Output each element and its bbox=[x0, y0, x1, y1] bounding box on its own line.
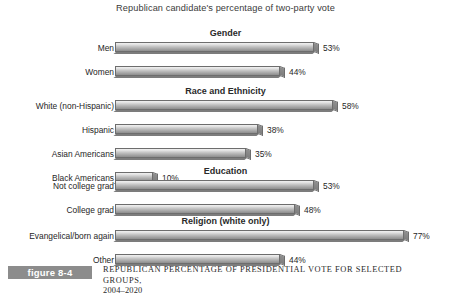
chart-bar-shadow bbox=[113, 52, 315, 54]
chart-bar-shadow bbox=[113, 158, 247, 160]
chart-bar-end-cap bbox=[258, 124, 263, 136]
chart-bar bbox=[115, 66, 280, 78]
figure-caption: figure 8-4 REPUBLICAN PERCENTAGE OF PRES… bbox=[0, 263, 451, 303]
chart-bar-end-cap bbox=[333, 100, 338, 112]
chart-group-title: Education bbox=[0, 166, 451, 176]
chart-group-bars: White (non-Hispanic)58%Hispanic38%Asian … bbox=[0, 100, 451, 148]
chart-bar-value: 53% bbox=[323, 181, 340, 192]
chart-bar-row: Evangelical/born again77% bbox=[0, 230, 451, 242]
chart-title: Republican candidate's percentage of two… bbox=[0, 3, 451, 13]
chart-bar-value: 48% bbox=[304, 205, 321, 216]
chart-bar-shadow bbox=[113, 76, 281, 78]
chart-bar-label: College grad bbox=[67, 204, 115, 216]
figure-caption-line-2: 2004–2020 bbox=[103, 286, 443, 297]
chart-bar-label: Women bbox=[85, 66, 114, 78]
chart-bar-label: White (non-Hispanic) bbox=[36, 100, 114, 112]
chart-bar-end-cap bbox=[280, 66, 285, 78]
chart-group-title: Race and Ethnicity bbox=[0, 86, 451, 96]
chart-bar-end-cap bbox=[314, 42, 319, 54]
chart-group-bars: Men53%Women44% bbox=[0, 42, 451, 66]
chart-bar-value: 77% bbox=[413, 231, 430, 242]
chart-bar-row: College grad48% bbox=[0, 204, 451, 216]
chart-bar-face bbox=[115, 148, 246, 158]
chart-bar-end-cap bbox=[404, 230, 409, 242]
chart-group-title: Religion (white only) bbox=[0, 216, 451, 226]
chart-bar-shadow bbox=[113, 134, 259, 136]
figure-number-badge: figure 8-4 bbox=[8, 266, 92, 279]
chart-bar-face bbox=[115, 230, 404, 240]
chart-bar-face bbox=[115, 66, 280, 76]
chart-bar-shadow bbox=[113, 190, 315, 192]
chart-bar-value: 53% bbox=[323, 43, 340, 54]
chart-plot-area: GenderMen53%Women44%Race and EthnicityWh… bbox=[0, 18, 451, 260]
chart-group-title: Gender bbox=[0, 28, 451, 38]
chart-bar-row: Women44% bbox=[0, 66, 451, 78]
chart-bar bbox=[115, 230, 404, 242]
chart-bar-end-cap bbox=[295, 204, 300, 216]
chart-bar-row: Asian Americans35% bbox=[0, 148, 451, 160]
chart-bar bbox=[115, 100, 333, 112]
chart-bar-label: Evangelical/born again bbox=[29, 230, 114, 242]
chart-bar-row: Men53% bbox=[0, 42, 451, 54]
chart-bar-face bbox=[115, 42, 314, 52]
figure-caption-text: REPUBLICAN PERCENTAGE OF PRESIDENTIAL VO… bbox=[103, 265, 443, 297]
chart-group-bars: Not college grad53%College grad48% bbox=[0, 180, 451, 204]
chart-bar-label: Hispanic bbox=[82, 124, 114, 136]
chart-bar-value: 44% bbox=[289, 67, 306, 78]
chart-bar-face bbox=[115, 180, 314, 190]
chart-bar-face bbox=[115, 100, 333, 110]
chart-bar-face bbox=[115, 204, 295, 214]
figure-container: Republican candidate's percentage of two… bbox=[0, 0, 451, 303]
chart-bar-end-cap bbox=[246, 148, 251, 160]
chart-bar-label: Not college grad bbox=[53, 180, 114, 192]
chart-bar bbox=[115, 204, 295, 216]
chart-bar-row: Hispanic38% bbox=[0, 124, 451, 136]
chart-bar-label: Asian Americans bbox=[52, 148, 114, 160]
chart-group-bars: Evangelical/born again77%Other44% bbox=[0, 230, 451, 254]
figure-caption-line-1: REPUBLICAN PERCENTAGE OF PRESIDENTIAL VO… bbox=[103, 265, 443, 286]
chart-bar bbox=[115, 42, 314, 54]
chart-bar-row: White (non-Hispanic)58% bbox=[0, 100, 451, 112]
chart-bar bbox=[115, 124, 258, 136]
chart-bar-end-cap bbox=[314, 180, 319, 192]
chart-bar-row: Not college grad53% bbox=[0, 180, 451, 192]
chart-bar bbox=[115, 148, 246, 160]
chart-bar-value: 35% bbox=[255, 149, 272, 160]
chart-bar-shadow bbox=[113, 110, 334, 112]
chart-bar-label: Men bbox=[98, 42, 114, 54]
chart-bar-value: 58% bbox=[342, 101, 359, 112]
chart-bar-face bbox=[115, 124, 258, 134]
chart-bar-value: 38% bbox=[267, 125, 284, 136]
chart-bar bbox=[115, 180, 314, 192]
chart-bar-shadow bbox=[113, 240, 405, 242]
